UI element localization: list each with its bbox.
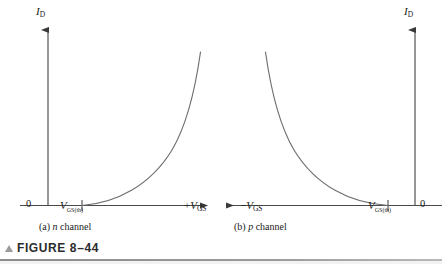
x-axis-label-p-channel: −VGS [240,200,263,211]
caption-triangle-icon [5,245,13,252]
x-axis-label-n-channel: +VGS [184,200,207,211]
threshold-label-n-channel: VGS(th) [60,200,83,211]
figure-caption-bar: FIGURE 8–44 [0,239,442,265]
y-axis-label-p-channel: ID [404,6,413,17]
plot-n-channel [20,30,207,211]
panel-caption-n-channel: (a) n channel [39,222,91,232]
curve-p-channel [266,52,389,206]
plot-p-channel [233,30,442,211]
origin-label-n-channel: 0 [26,199,31,210]
origin-label-p-channel: 0 [420,199,425,210]
panel-caption-p-channel: (b) p channel [234,222,287,232]
figure-caption-text: FIGURE 8–44 [17,241,99,255]
figure-container: ID 0 VGS(th) +VGS (a) n channel ID 0 VGS… [0,0,442,265]
caption-rule-shadow [0,261,442,264]
threshold-label-p-channel: VGS(th) [368,200,391,211]
y-axis-label-n-channel: ID [36,6,45,17]
curve-n-channel [82,52,201,206]
